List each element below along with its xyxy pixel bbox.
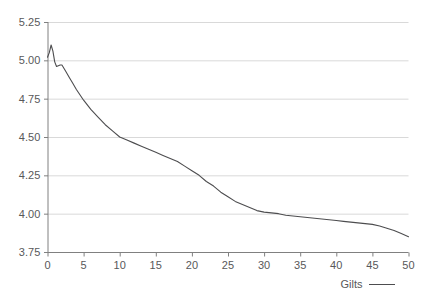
x-tick-label: 0 — [44, 259, 50, 271]
x-tick-label: 40 — [330, 259, 342, 271]
gridlines — [48, 23, 409, 253]
y-tick-label: 5.25 — [4, 16, 41, 28]
x-axis — [48, 253, 410, 257]
x-tick-label: 45 — [366, 259, 378, 271]
x-tick-label: 35 — [294, 259, 306, 271]
series-line-gilts — [48, 45, 409, 237]
y-tick-label: 4.00 — [4, 208, 41, 220]
x-tick-label: 10 — [113, 259, 125, 271]
gilt-yield-curve-chart: 3.754.004.254.504.755.005.25 05101520253… — [0, 0, 442, 299]
y-tick-label: 3.75 — [4, 246, 41, 258]
chart-plot-area — [0, 0, 442, 299]
data-series-group — [48, 45, 409, 237]
legend-line-swatch — [369, 284, 395, 285]
legend-label-gilts: Gilts — [341, 278, 363, 290]
y-tick-label: 4.75 — [4, 93, 41, 105]
y-tick-label: 5.00 — [4, 54, 41, 66]
chart-legend: Gilts — [341, 278, 395, 290]
x-tick-label: 15 — [150, 259, 162, 271]
x-tick-label: 25 — [222, 259, 234, 271]
y-tick-label: 4.50 — [4, 131, 41, 143]
x-tick-label: 5 — [80, 259, 86, 271]
y-tick-label: 4.25 — [4, 169, 41, 181]
x-tick-label: 50 — [402, 259, 414, 271]
x-tick-label: 30 — [258, 259, 270, 271]
x-tick-label: 20 — [186, 259, 198, 271]
